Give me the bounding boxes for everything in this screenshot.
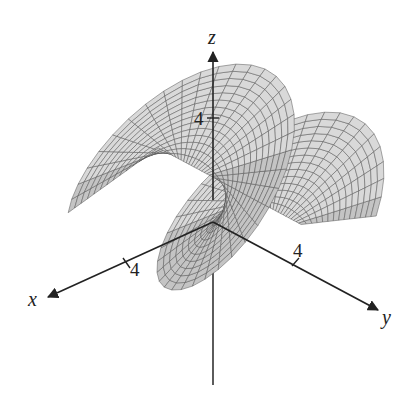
y-tick-label: 4: [293, 240, 303, 261]
y-axis-label: y: [380, 306, 391, 329]
z-tick-label: 4: [194, 108, 204, 129]
x-tick-label: 4: [130, 259, 140, 280]
z-axis-label: z: [207, 26, 216, 48]
y-axis: [213, 222, 378, 310]
spiral-surface-figure: z x y 4 4 4: [0, 0, 409, 408]
x-axis-label: x: [27, 288, 37, 310]
spiral-surface: [68, 64, 384, 290]
